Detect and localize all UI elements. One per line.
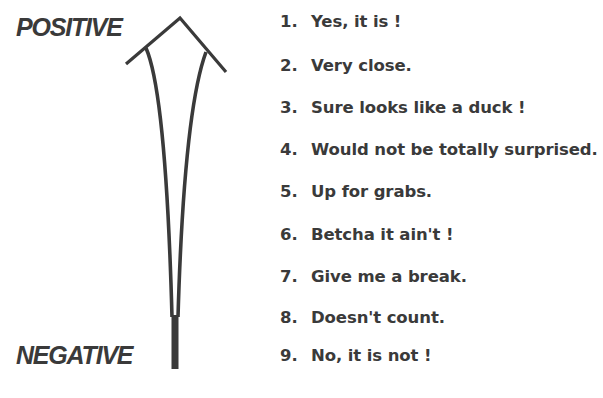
item-text: No, it is not ! [311, 346, 431, 365]
item-number: 9. [280, 346, 311, 366]
item-number: 7. [280, 267, 311, 287]
item-text: Yes, it is ! [311, 12, 401, 31]
scale-item-9: 9.No, it is not ! [280, 346, 431, 366]
item-text: Up for grabs. [311, 182, 432, 201]
item-number: 5. [280, 182, 311, 202]
item-number: 8. [280, 308, 311, 328]
item-text: Would not be totally surprised. [311, 140, 598, 159]
scale-item-4: 4.Would not be totally surprised. [280, 140, 598, 160]
item-number: 1. [280, 12, 311, 32]
item-text: Doesn't count. [311, 308, 445, 327]
scale-item-5: 5.Up for grabs. [280, 182, 432, 202]
item-text: Very close. [311, 56, 412, 75]
item-number: 2. [280, 56, 311, 76]
scale-item-6: 6.Betcha it ain't ! [280, 225, 453, 245]
item-text: Betcha it ain't ! [311, 225, 453, 244]
scale-item-3: 3.Sure looks like a duck ! [280, 98, 525, 118]
arrow-shaft-right [178, 52, 206, 317]
arrowhead [126, 18, 226, 72]
scale-item-7: 7.Give me a break. [280, 267, 467, 287]
item-number: 3. [280, 98, 311, 118]
scale-item-2: 2.Very close. [280, 56, 412, 76]
scale-item-8: 8.Doesn't count. [280, 308, 445, 328]
item-text: Sure looks like a duck ! [311, 98, 525, 117]
arrow-shaft-left [146, 48, 172, 317]
scale-item-1: 1.Yes, it is ! [280, 12, 401, 32]
item-text: Give me a break. [311, 267, 467, 286]
item-number: 6. [280, 225, 311, 245]
arrow-stem [172, 315, 179, 369]
item-number: 4. [280, 140, 311, 160]
